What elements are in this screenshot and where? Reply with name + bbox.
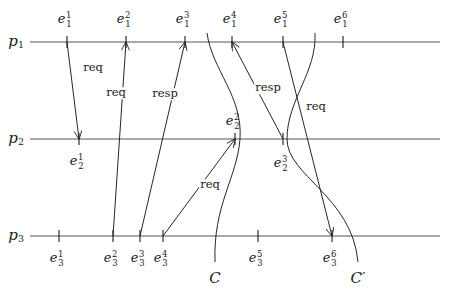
- event-label-e2-1: e12: [70, 154, 89, 167]
- process-label-p1: p1: [8, 34, 24, 50]
- message-label-m5: resp: [254, 82, 282, 94]
- cut-label-Cp: C′: [351, 271, 366, 286]
- event-label-e1-3: e31: [176, 12, 195, 25]
- event-label-e3-1: e13: [50, 251, 69, 264]
- event-label-e2-3: e32: [274, 156, 293, 169]
- cut-curve-C: [207, 33, 240, 262]
- message-label-m1: req: [82, 62, 104, 74]
- event-label-e3-4: e43: [154, 251, 173, 264]
- cut-lines: [207, 33, 358, 262]
- process-label-p2: p2: [8, 131, 24, 147]
- process-label-p3: p3: [8, 228, 24, 244]
- message-label-m6: req: [305, 101, 327, 113]
- message-label-m4: req: [199, 179, 221, 191]
- event-label-e3-3: e33: [131, 251, 150, 264]
- event-label-e1-2: e21: [117, 12, 136, 25]
- event-label-e3-6: e63: [323, 251, 342, 264]
- message-label-m2: req: [105, 87, 127, 99]
- message-arrow-m1: [67, 42, 79, 139]
- event-label-e1-5: e51: [274, 12, 293, 25]
- event-label-e3-2: e23: [104, 251, 123, 264]
- event-label-e1-4: e41: [223, 12, 242, 25]
- cut-curve-Cp: [287, 33, 358, 262]
- event-label-e3-5: e53: [249, 251, 268, 264]
- event-label-e2-2: e22: [226, 114, 245, 127]
- message-label-m3: resp: [151, 88, 179, 100]
- event-label-e1-1: e11: [58, 12, 77, 25]
- cut-label-C: C: [209, 271, 220, 286]
- event-label-e1-6: e61: [334, 12, 353, 25]
- space-time-diagram: p1p2p3e11e21e31e41e51e61e12e22e32e13e23e…: [0, 0, 449, 300]
